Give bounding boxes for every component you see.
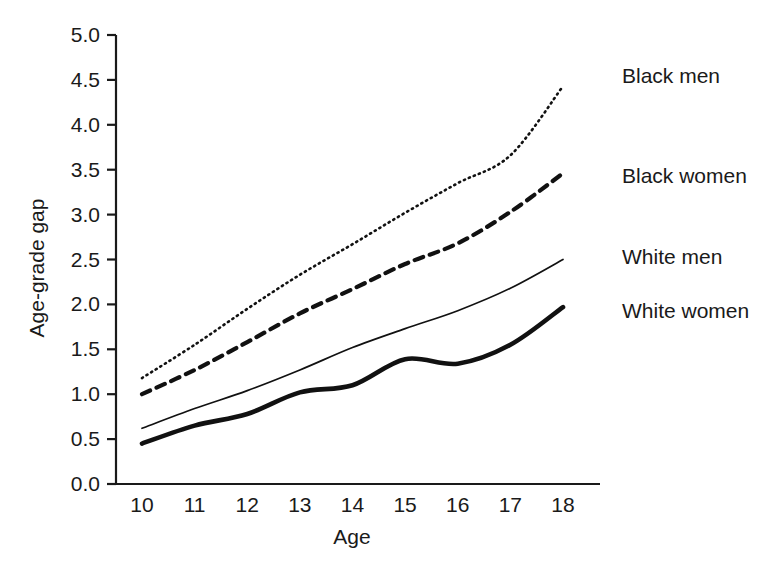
series-group [142, 86, 563, 443]
x-tick-label: 17 [499, 493, 522, 516]
series-label-black-men: Black men [622, 64, 720, 87]
y-tick-label: 2.5 [71, 248, 100, 271]
y-tick-label: 1.5 [71, 337, 100, 360]
y-tick-label: 4.0 [71, 113, 100, 136]
series-line-black-men [142, 86, 563, 378]
y-tick-label: 2.0 [71, 292, 100, 315]
x-tick-label: 15 [393, 493, 416, 516]
x-tick-label: 16 [446, 493, 469, 516]
y-tick-label: 3.5 [71, 158, 100, 181]
x-tick-label: 18 [551, 493, 574, 516]
y-tick-label: 1.0 [71, 382, 100, 405]
y-tick-label: 5.0 [71, 23, 100, 46]
x-axis-title: Age [333, 525, 370, 548]
y-tick-label: 0.5 [71, 427, 100, 450]
x-tick-label: 14 [341, 493, 365, 516]
series-label-black-women: Black women [622, 164, 747, 187]
series-label-white-men: White men [622, 245, 722, 268]
x-tick-label: 12 [236, 493, 259, 516]
y-tick-label: 0.0 [71, 472, 100, 495]
series-line-black-women [142, 173, 563, 394]
series-line-white-men [142, 260, 563, 429]
y-axis-ticks: 5.04.54.03.53.02.52.01.51.00.50.0 [71, 23, 116, 495]
age-grade-gap-line-chart: 5.04.54.03.53.02.52.01.51.00.50.0 101112… [0, 0, 776, 584]
y-tick-label: 3.0 [71, 203, 100, 226]
axis-lines [116, 35, 600, 484]
x-tick-label: 11 [184, 493, 206, 516]
x-tick-label: 13 [288, 493, 311, 516]
x-axis-ticks: 101112131415161718 [130, 493, 574, 516]
y-tick-label: 4.5 [71, 68, 100, 91]
x-tick-label: 10 [130, 493, 153, 516]
series-line-white-women [142, 307, 563, 444]
series-label-white-women: White women [622, 299, 749, 322]
y-axis-title: Age-grade gap [25, 199, 48, 338]
chart-figure: 5.04.54.03.53.02.52.01.51.00.50.0 101112… [0, 0, 776, 584]
